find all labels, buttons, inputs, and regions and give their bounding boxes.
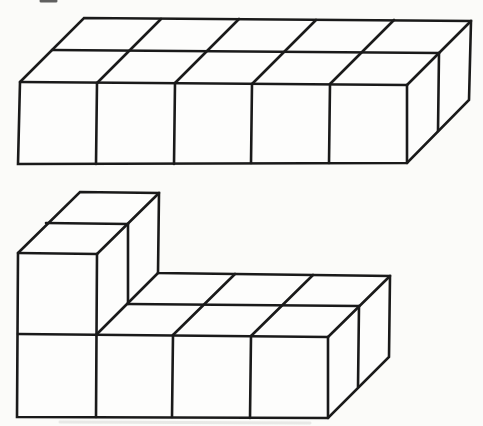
l-shaped-solid-figure <box>17 192 390 418</box>
side-face-divider <box>438 53 439 131</box>
front-face-divider-3 <box>251 84 252 163</box>
rectangular-slab-figure-outline <box>18 18 471 164</box>
scanned-page <box>0 0 483 426</box>
base-front-divider-1 <box>172 335 173 417</box>
rectangular-slab-figure <box>18 18 471 164</box>
cube-diagrams-canvas <box>0 0 483 426</box>
base-front-divider-2 <box>250 336 251 418</box>
front-face-divider-4 <box>329 84 330 163</box>
scan-smear-bottom <box>60 422 310 423</box>
base-side-face-divider <box>358 306 359 387</box>
tower-top-row-divider <box>46 223 128 224</box>
front-face-divider-2 <box>174 83 175 164</box>
tower-front-top-edge <box>18 253 97 254</box>
front-face-divider-1 <box>96 83 97 164</box>
